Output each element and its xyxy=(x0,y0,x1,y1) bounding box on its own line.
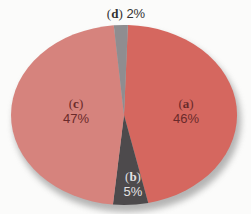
slice-pct-c: 47% xyxy=(46,111,106,126)
slice-label-b: (b) 5% xyxy=(113,169,153,199)
slice-key-a: (a) xyxy=(156,96,216,111)
slice-label-d: (d) 2% xyxy=(96,6,156,21)
slice-key-c: (c) xyxy=(46,96,106,111)
slice-pct-b: 5% xyxy=(113,184,153,199)
slice-label-a: (a) 46% xyxy=(156,96,216,126)
slice-pct-a: 46% xyxy=(156,111,216,126)
slice-key-d: (d) xyxy=(107,6,123,21)
slice-label-c: (c) 47% xyxy=(46,96,106,126)
slice-pct-d: 2% xyxy=(126,6,145,21)
slice-key-b: (b) xyxy=(113,169,153,184)
